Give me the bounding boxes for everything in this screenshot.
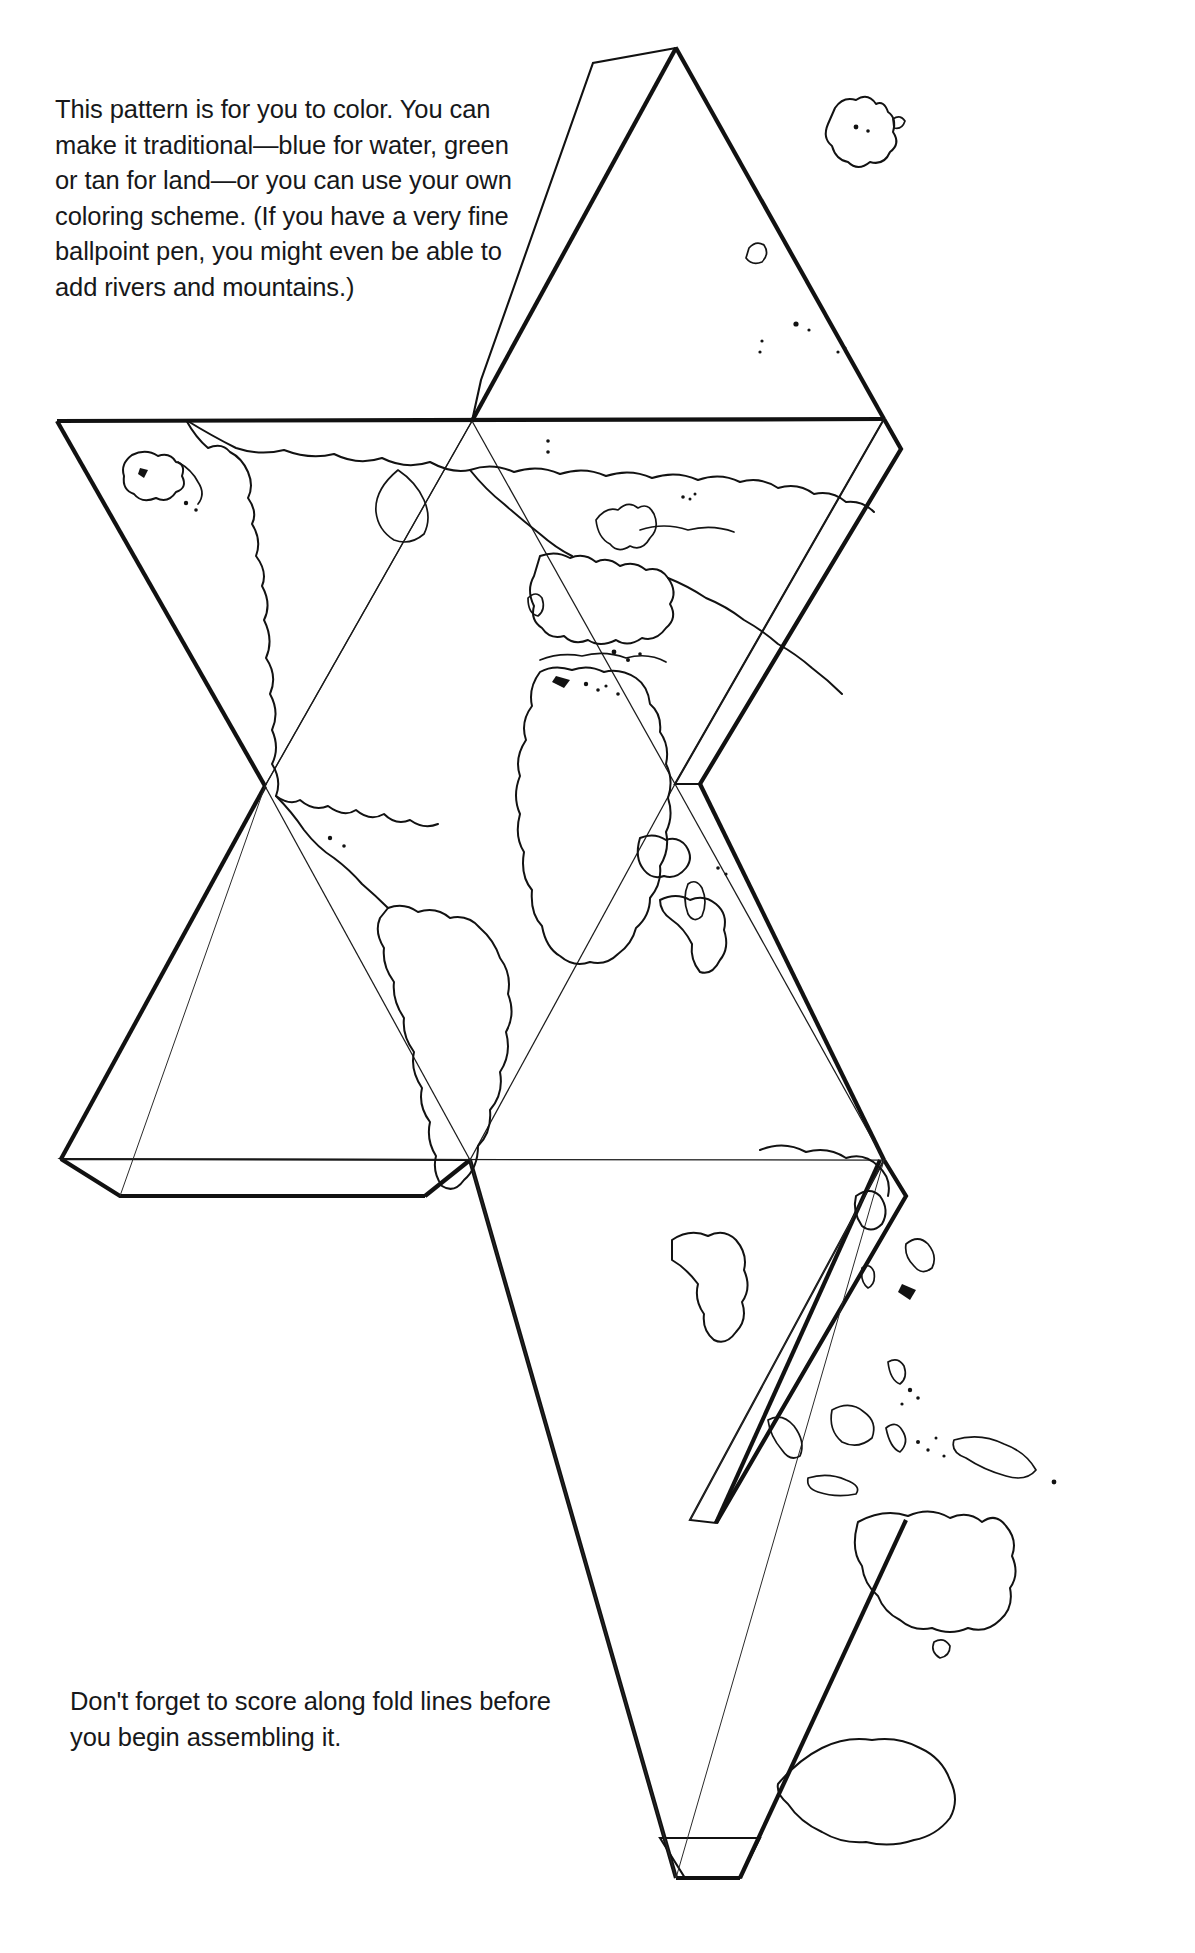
coastline-antarctica	[778, 1739, 955, 1845]
coastline-iceland	[746, 243, 767, 263]
fold-line-upper-band-v3	[675, 419, 884, 784]
coastline-asia-south	[668, 578, 842, 694]
coastline-borneo	[831, 1405, 874, 1445]
cut-edge-lower-right-diagonal	[716, 1160, 906, 1523]
fold-line-left-wing-inner	[120, 786, 265, 1196]
islet-north-atlantic-4	[689, 498, 692, 501]
cut-edge-bottom-apex-right	[740, 1520, 906, 1878]
islet-aleutian-3	[194, 508, 198, 512]
coastline-java	[808, 1475, 858, 1495]
cut-edge-left-wing-bottom	[61, 1159, 425, 1196]
islet-indian-ocean-1	[716, 866, 720, 870]
cut-edge-left-lower-join	[425, 1160, 470, 1196]
coastline-madagascar	[685, 882, 705, 920]
fold-line-mid-left	[265, 786, 470, 1160]
fold-line-upper-band-v4	[265, 421, 472, 786]
islet-madeira	[836, 350, 839, 353]
coastline-north-america	[186, 420, 438, 826]
islet-canary-2	[758, 350, 761, 353]
islet-north-atlantic-2	[546, 450, 550, 454]
islet-aleutian-1	[138, 468, 148, 478]
islet-azores-1	[793, 321, 798, 326]
islet-canary-1	[760, 339, 763, 342]
coastline-japan	[906, 1239, 935, 1272]
islet-philippines-3	[900, 1402, 903, 1405]
cut-edge-lower-band-right	[700, 784, 884, 1160]
islet-moluccas-4	[942, 1454, 945, 1457]
coastline-europe	[530, 553, 674, 644]
coastline-greenland	[826, 97, 897, 167]
cut-edge-upper-band-top	[57, 419, 884, 421]
islet-greenland-1	[854, 125, 859, 130]
islet-mediterranean-4	[604, 684, 607, 687]
islet-philippines-1	[908, 1388, 912, 1392]
cut-edge-upper-left-diagonal	[57, 421, 265, 786]
coastline-central-america	[276, 796, 388, 908]
islet-arctic-1	[612, 650, 617, 655]
islet-mediterranean-1	[552, 676, 570, 688]
fold-line-mid-center	[470, 784, 675, 1160]
islet-caribbean-2	[342, 844, 346, 848]
islet-north-atlantic-5	[694, 493, 697, 496]
islet-north-atlantic-3	[681, 495, 685, 499]
fold-lines	[61, 419, 884, 1878]
cut-edge-upper-right-diagonal	[700, 419, 901, 784]
cut-edge-left-wing-top	[61, 786, 265, 1159]
islet-mediterranean-3	[596, 688, 600, 692]
coastline-new-guinea	[953, 1437, 1036, 1478]
coastline-sulawesi	[886, 1424, 906, 1452]
islet-japan-south	[898, 1284, 916, 1300]
coastline-south-america	[378, 906, 512, 1189]
islet-caribbean-1	[328, 836, 332, 840]
glue-tab-upper-right	[675, 419, 901, 784]
islet-moluccas-3	[935, 1437, 938, 1440]
islet-greenland-2	[866, 129, 870, 133]
islet-arctic-3	[638, 652, 642, 656]
islet-north-atlantic-1	[546, 439, 550, 443]
coastline-siberia	[470, 466, 874, 512]
islet-moluccas-1	[916, 1440, 920, 1444]
islet-crete	[616, 692, 620, 696]
coastline-alaska	[123, 452, 184, 501]
glue-tabs	[61, 48, 906, 1878]
cut-edge-top-apex-right	[676, 48, 884, 419]
coastline-scandinavia	[596, 504, 656, 549]
net-cut-outline	[57, 48, 906, 1878]
islet-aleutian-2	[184, 501, 188, 505]
islet-azores-2	[807, 328, 810, 331]
fold-line-bottom-right-inner	[690, 1160, 884, 1520]
intro-instruction-text: This pattern is for you to color. You ca…	[55, 92, 525, 305]
fold-line-bottom-apex-inner	[676, 1160, 884, 1878]
coastline-southeast-asia	[672, 1233, 748, 1342]
coastline-australia	[855, 1511, 1016, 1632]
coastline-hudson-bay	[376, 470, 428, 542]
islet-moluccas-2	[926, 1448, 929, 1451]
islet-cape-verde-1	[843, 346, 846, 349]
fold-line-bottom-inner	[470, 1160, 676, 1878]
coastline-north-america-east	[186, 420, 470, 471]
islet-philippines-2	[916, 1396, 920, 1400]
islet-mediterranean-2	[584, 682, 588, 686]
coastline-tasmania	[933, 1640, 950, 1658]
islet-new-caledonia	[1052, 1480, 1057, 1485]
coastline-philippines	[888, 1360, 905, 1384]
coastline-asia-interior	[470, 470, 572, 556]
closing-instruction-text: Don't forget to score along fold lines b…	[70, 1684, 590, 1755]
coastline-india	[660, 896, 726, 973]
page-canvas: This pattern is for you to color. You ca…	[0, 0, 1195, 1953]
islet-indian-ocean-2	[724, 872, 727, 875]
coastline-africa	[516, 667, 671, 964]
coastline-alaska-peninsula	[178, 462, 202, 504]
islet-arctic-2	[626, 658, 630, 662]
